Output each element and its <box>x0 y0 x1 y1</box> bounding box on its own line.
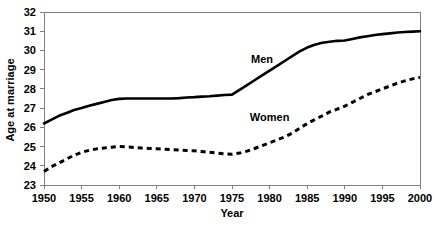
x-tick-label: 1995 <box>370 192 394 204</box>
y-tick-label: 24 <box>24 160 37 172</box>
x-tick-label: 1975 <box>220 192 244 204</box>
x-tick-label: 1955 <box>69 192 93 204</box>
x-axis-ticks: 1950195519601965197019751980198519901995… <box>32 185 432 204</box>
y-tick-label: 31 <box>24 25 36 37</box>
y-axis-ticks: 23242526272829303132 <box>24 6 44 191</box>
y-tick-label: 27 <box>24 102 36 114</box>
y-tick-label: 32 <box>24 6 36 18</box>
x-tick-label: 1985 <box>295 192 319 204</box>
y-tick-label: 30 <box>24 44 36 56</box>
y-tick-label: 25 <box>24 141 36 153</box>
y-axis-title: Age at marriage <box>4 58 16 141</box>
series-label-men: Men <box>251 53 273 65</box>
x-axis-title: Year <box>220 207 244 219</box>
series-annotations: MenWomen <box>250 53 290 123</box>
y-tick-label: 26 <box>24 121 36 133</box>
x-tick-label: 1965 <box>145 192 169 204</box>
series-line-men <box>44 31 420 123</box>
y-tick-label: 23 <box>24 179 36 191</box>
y-tick-label: 28 <box>24 83 36 95</box>
series-label-women: Women <box>250 111 290 123</box>
x-tick-label: 1990 <box>333 192 357 204</box>
chart-figure: 23242526272829303132 1950195519601965197… <box>0 0 438 228</box>
x-tick-label: 1960 <box>107 192 131 204</box>
data-series-group <box>44 31 420 171</box>
y-tick-label: 29 <box>24 64 36 76</box>
x-tick-label: 1980 <box>257 192 281 204</box>
x-tick-label: 2000 <box>408 192 432 204</box>
x-tick-label: 1970 <box>182 192 206 204</box>
line-chart: 23242526272829303132 1950195519601965197… <box>0 0 438 228</box>
x-tick-label: 1950 <box>32 192 56 204</box>
series-line-women <box>44 77 420 171</box>
